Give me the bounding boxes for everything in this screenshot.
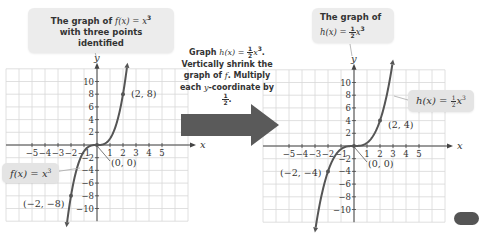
desc-text: . [262, 48, 265, 57]
y-tick-label: −2 [338, 154, 351, 164]
left-title-callout: The graph of f(x) = x3 with three points… [28, 8, 174, 53]
eq-exponent: 3 [462, 94, 466, 101]
x-tick-label: −5 [26, 148, 39, 158]
curve-arrow-icon [390, 60, 395, 65]
x-tick-label: 5 [159, 148, 164, 158]
graph-h-plot: xy−5−4−3−2−112345−10−8−6−4−2246810(−2, −… [263, 53, 463, 233]
point-label: (2, 8) [131, 88, 157, 99]
y-tick-label: 6 [89, 102, 94, 112]
y-tick-label: 6 [346, 103, 351, 113]
data-point [69, 194, 73, 198]
callout-exponent: 3 [147, 14, 151, 21]
point-label: (0, 0) [368, 158, 394, 169]
point-label: (2, 4) [388, 119, 414, 130]
x-axis-arrow-icon [447, 144, 453, 149]
desc-text: -coordinate by [209, 83, 275, 92]
callout-math: h(x) = [320, 27, 349, 37]
callout-math: f(x) = x [115, 16, 147, 26]
point-label: (0, 0) [111, 157, 137, 168]
x-tick-label: −4 [39, 148, 52, 158]
x-tick-label: −4 [296, 149, 309, 159]
page-indicator-pill[interactable] [454, 212, 479, 225]
y-tick-label: 10 [340, 78, 351, 88]
point-label: (−2, −8) [23, 198, 64, 209]
x-tick-label: 4 [403, 149, 408, 159]
x-tick-label: 5 [416, 149, 421, 159]
figure: xy−5−4−3−2−112345−10−8−6−4−2246810(−2, −… [0, 0, 479, 234]
desc-text: Graph [189, 48, 219, 57]
callout-exponent: 3 [360, 25, 364, 32]
y-tick-label: −6 [338, 179, 351, 189]
right-title-callout: The graph of h(x) = 12x3 [312, 8, 394, 43]
y-tick-label: −6 [81, 178, 94, 188]
callout-text: The graph of [51, 16, 115, 26]
data-point [326, 169, 330, 173]
x-tick-label: −2 [65, 148, 78, 158]
y-axis-arrow-icon [95, 63, 100, 69]
eq-math: f(x) = x [10, 168, 48, 179]
callout-text: with three points identified [36, 27, 166, 49]
x-axis-label: x [457, 140, 463, 151]
data-point [121, 92, 125, 96]
desc-text: graph of [184, 71, 225, 80]
y-tick-label: −10 [333, 205, 351, 215]
y-axis-label: y [93, 52, 100, 63]
y-axis-label: y [350, 53, 357, 64]
y-tick-label: 4 [89, 115, 94, 125]
desc-text: . Multiply [228, 71, 270, 80]
curve-arrow-icon [313, 227, 318, 232]
y-tick-label: 8 [346, 90, 351, 100]
x-tick-label: −3 [309, 149, 322, 159]
y-tick-label: 8 [89, 89, 94, 99]
desc-text: each [180, 83, 204, 92]
graph-f-plot: xy−5−4−3−2−112345−10−8−6−4−2246810(−2, −… [6, 52, 206, 227]
desc-text: Vertically shrink the [178, 59, 276, 71]
data-point [352, 144, 356, 148]
y-tick-label: −4 [338, 166, 351, 176]
y-axis-arrow-icon [352, 64, 357, 70]
y-tick-label: 2 [89, 127, 94, 137]
callout-text: The graph of [320, 12, 386, 23]
eq-exponent: 3 [48, 167, 52, 174]
transformation-description: Graph h(x) = 12x3. Vertically shrink the… [178, 43, 276, 106]
desc-math: h(x) = [219, 48, 247, 57]
x-tick-label: 4 [146, 148, 151, 158]
f-equation-label: f(x) = x3 [2, 163, 59, 183]
y-tick-label: 10 [83, 77, 94, 87]
data-point [95, 143, 99, 147]
x-tick-label: −2 [322, 149, 335, 159]
y-tick-label: −10 [76, 204, 94, 214]
x-tick-label: −5 [283, 149, 296, 159]
point-label: (−2, −4) [280, 167, 321, 178]
eq-math: h(x) = [416, 95, 451, 106]
curve-arrow-icon [124, 63, 129, 68]
y-tick-label: 2 [346, 128, 351, 138]
data-point [378, 119, 382, 123]
y-tick-label: −8 [81, 191, 94, 201]
y-tick-label: −4 [81, 165, 94, 175]
x-tick-label: −3 [52, 148, 65, 158]
y-tick-label: −8 [338, 192, 351, 202]
curve-arrow-icon [65, 222, 70, 227]
h-equation-label: h(x) = 12x3 [408, 90, 474, 112]
transformation-arrow-icon [181, 104, 281, 146]
y-tick-label: 4 [346, 116, 351, 126]
desc-text: . [229, 95, 232, 104]
